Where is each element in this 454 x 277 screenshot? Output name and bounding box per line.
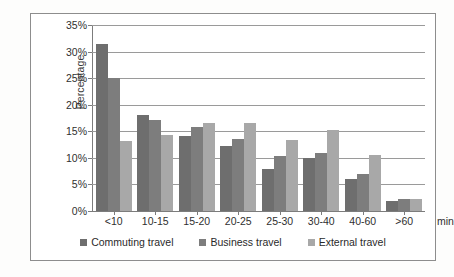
bar[interactable] [303, 158, 315, 211]
bar[interactable] [357, 174, 369, 211]
bar[interactable] [262, 169, 274, 211]
x-axis-unit-label: min [437, 215, 454, 227]
y-axis-tick-mark [88, 78, 92, 79]
x-axis-tick-label: 20-25 [218, 215, 260, 227]
x-axis-tick-label: <10 [93, 215, 135, 227]
y-axis-tick-label: 25% [49, 72, 87, 84]
bar[interactable] [369, 155, 381, 211]
bar-groups [93, 25, 425, 211]
legend-swatch-icon [308, 239, 315, 246]
chart-legend: Commuting travelBusiness travelExternal … [31, 236, 435, 248]
bar[interactable] [345, 179, 357, 211]
y-axis-tick-labels: 0%5%10%15%20%25%30%35% [49, 25, 87, 211]
legend-item[interactable]: External travel [308, 236, 386, 248]
bar[interactable] [120, 141, 132, 211]
legend-swatch-icon [199, 239, 206, 246]
plot-wrapper: Percentage 0%5%10%15%20%25%30%35% <1010-… [31, 14, 435, 260]
bar-group [259, 25, 301, 211]
axis-baseline [92, 211, 425, 212]
y-axis-tick-mark [88, 105, 92, 106]
y-axis-tick-label: 0% [49, 205, 87, 217]
bar[interactable] [315, 153, 327, 211]
bar[interactable] [244, 123, 256, 211]
x-axis-tick-label: 30-40 [301, 215, 343, 227]
bar[interactable] [96, 44, 108, 211]
plot-area [92, 25, 425, 211]
bar[interactable] [161, 135, 173, 211]
y-axis-tick-label: 30% [49, 46, 87, 58]
bar[interactable] [327, 130, 339, 211]
bar[interactable] [410, 199, 422, 211]
bar[interactable] [108, 78, 120, 211]
y-axis-tick-label: 15% [49, 125, 87, 137]
bar-group [384, 25, 426, 211]
bar[interactable] [191, 127, 203, 211]
y-axis-tick-label: 20% [49, 99, 87, 111]
legend-item[interactable]: Commuting travel [80, 236, 173, 248]
x-axis-tick-label: 40-60 [342, 215, 384, 227]
y-axis-tick-mark [88, 158, 92, 159]
y-axis-tick-mark [88, 131, 92, 132]
x-axis-tick-label: 10-15 [135, 215, 177, 227]
bar[interactable] [220, 146, 232, 211]
bar[interactable] [232, 139, 244, 211]
bar[interactable] [274, 156, 286, 211]
legend-label: Commuting travel [91, 236, 173, 248]
legend-item[interactable]: Business travel [199, 236, 281, 248]
y-axis-tick-mark [88, 25, 92, 26]
bar[interactable] [179, 136, 191, 211]
x-axis-tick-label: 15-20 [176, 215, 218, 227]
bar-group [301, 25, 343, 211]
bar[interactable] [286, 140, 298, 211]
bar[interactable] [149, 120, 161, 211]
y-axis-tick-mark [88, 211, 92, 212]
y-axis-tick-label: 10% [49, 152, 87, 164]
bar[interactable] [386, 201, 398, 211]
y-axis-tick-label: 5% [49, 178, 87, 190]
bar-group [342, 25, 384, 211]
bar[interactable] [398, 199, 410, 211]
y-axis-tick-label: 35% [49, 19, 87, 31]
y-axis-tick-mark [88, 52, 92, 53]
legend-label: Business travel [210, 236, 281, 248]
bar[interactable] [137, 115, 149, 211]
y-axis-tick-mark [88, 184, 92, 185]
bar-group [93, 25, 135, 211]
bar-group [135, 25, 177, 211]
x-axis-tick-label: >60 [384, 215, 426, 227]
x-axis-tick-labels: <1010-1515-2020-2525-3030-4040-60>60 [93, 215, 425, 227]
x-axis-tick-label: 25-30 [259, 215, 301, 227]
bar-group [176, 25, 218, 211]
chart-frame: Percentage 0%5%10%15%20%25%30%35% <1010-… [30, 13, 436, 261]
bar-group [218, 25, 260, 211]
bar[interactable] [203, 123, 215, 211]
legend-swatch-icon [80, 239, 87, 246]
legend-label: External travel [319, 236, 386, 248]
